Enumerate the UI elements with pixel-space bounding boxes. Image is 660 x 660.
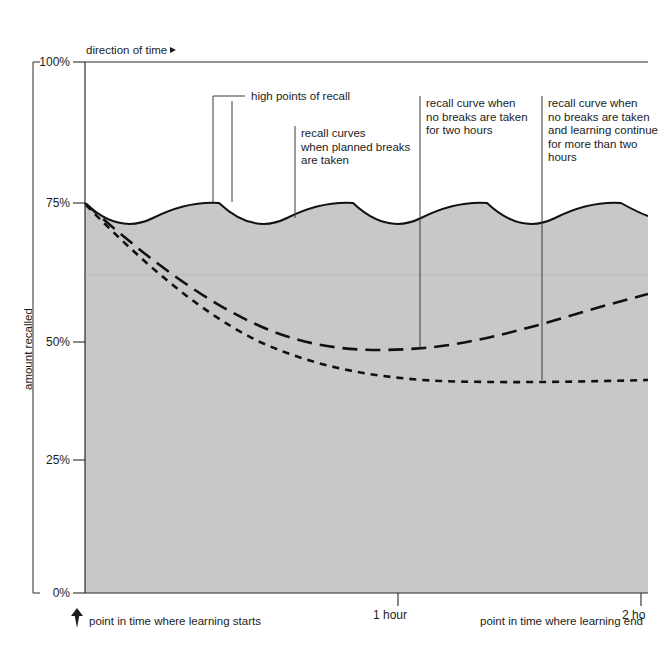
annotation-no-breaks-continued: recall curve when no breaks are taken an… xyxy=(548,97,660,165)
y-tick-label-25: 25% xyxy=(8,453,70,467)
annotation-planned-breaks: recall curves when planned breaks are ta… xyxy=(301,127,410,168)
y-tick-label-50: 50% xyxy=(8,335,70,349)
y-tick-label-100: 100% xyxy=(8,55,70,69)
y-axis-title: amount recalled xyxy=(22,308,34,390)
x-tick-label-1-hour: 1 hour xyxy=(373,608,407,622)
direction-of-time-text: direction of time xyxy=(86,44,167,56)
learning-starts-marker-head-icon xyxy=(71,608,83,616)
y-tick-marks xyxy=(73,62,85,593)
y-axis-bracket xyxy=(33,62,40,593)
recall-area-fill xyxy=(85,203,648,593)
footnote-learning-ends: point in time where learning end xyxy=(480,615,643,627)
direction-of-time-label: direction of time xyxy=(86,44,176,56)
y-tick-label-75: 75% xyxy=(8,196,70,210)
annotation-no-breaks-two-hours: recall curve when no breaks are taken fo… xyxy=(426,97,528,138)
footnote-learning-starts: point in time where learning starts xyxy=(89,615,261,627)
leader-high-points-bracket xyxy=(213,96,245,101)
y-tick-label-0: 0% xyxy=(8,586,70,600)
annotation-high-points-of-recall: high points of recall xyxy=(251,90,350,104)
arrow-right-icon xyxy=(170,47,176,53)
